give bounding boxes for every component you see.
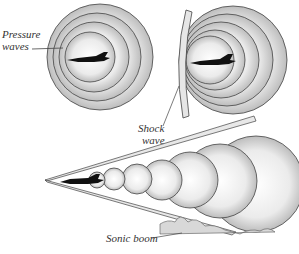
subsonic-wave-group [47,4,153,110]
pressure-label-line2: waves [2,40,40,52]
shock-pointer [163,86,179,126]
sonic-wave-group [179,6,287,118]
shock-label-line2: wave [138,134,165,146]
sonic-boom-label: Sonic boom [106,232,158,244]
supersonic-wave-group [45,116,299,235]
shock-label-line1: Shock [138,122,165,134]
shock-wave-label: Shock wave [138,122,165,146]
pressure-label-line1: Pressure [2,28,40,40]
pressure-waves-label: Pressure waves [2,28,40,52]
